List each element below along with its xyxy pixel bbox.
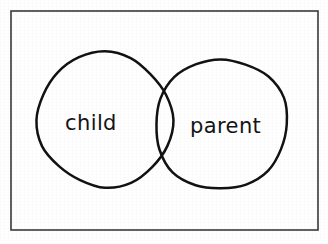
diagram-canvas: child parent (0, 0, 328, 244)
venn-diagram-svg: child parent (0, 0, 328, 244)
label-child: child (65, 111, 117, 135)
outer-border (11, 11, 318, 230)
label-parent: parent (190, 114, 261, 138)
